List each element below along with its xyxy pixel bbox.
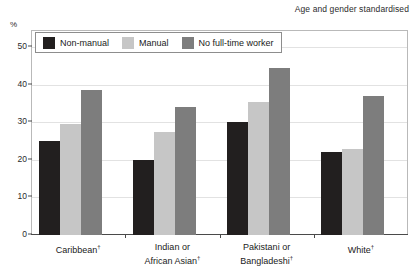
bar[interactable] bbox=[363, 96, 384, 235]
bar[interactable] bbox=[39, 141, 60, 235]
footnote-marker: † bbox=[371, 244, 374, 250]
bar-group bbox=[125, 30, 219, 235]
x-axis-label-line: White† bbox=[314, 242, 408, 256]
bar[interactable] bbox=[133, 160, 154, 235]
y-axis-tick-label: 40 bbox=[0, 79, 27, 89]
legend-item-label: Manual bbox=[139, 38, 169, 48]
x-axis-label-line: Bangladeshi† bbox=[220, 253, 314, 267]
footnote-marker: † bbox=[290, 255, 293, 261]
legend-item[interactable]: No full-time worker bbox=[182, 37, 274, 49]
x-axis-label-line: African Asian† bbox=[125, 253, 219, 267]
y-axis-unit-label: % bbox=[10, 20, 17, 29]
legend-swatch-icon bbox=[182, 37, 194, 49]
bar-group bbox=[314, 30, 408, 235]
bar-group bbox=[220, 30, 314, 235]
bar[interactable] bbox=[269, 68, 290, 235]
legend-item[interactable]: Non-manual bbox=[43, 37, 109, 49]
bars-layer bbox=[31, 30, 408, 235]
bar[interactable] bbox=[81, 90, 102, 235]
bar-group bbox=[31, 30, 125, 235]
y-axis-tick-label: 10 bbox=[0, 191, 27, 201]
y-axis-tick-label: 50 bbox=[0, 41, 27, 51]
y-axis-tick-label: 20 bbox=[0, 154, 27, 164]
bar[interactable] bbox=[248, 102, 269, 235]
y-axis-tick-label: 0 bbox=[0, 229, 27, 239]
bar[interactable] bbox=[60, 124, 81, 235]
legend-swatch-icon bbox=[43, 37, 55, 49]
y-axis-tick-label: 30 bbox=[0, 116, 27, 126]
footnote-marker: † bbox=[97, 244, 100, 250]
bar[interactable] bbox=[321, 152, 342, 235]
x-axis-tick-mark bbox=[220, 234, 221, 238]
bar[interactable] bbox=[227, 122, 248, 235]
bar[interactable] bbox=[175, 107, 196, 235]
chart-legend: Non-manualManualNo full-time worker bbox=[35, 32, 282, 53]
bar[interactable] bbox=[154, 132, 175, 235]
bar-chart-figure: Age and gender standardised % 0102030405… bbox=[0, 0, 417, 276]
x-axis-label-line: Caribbean† bbox=[31, 242, 125, 256]
x-axis-tick-mark bbox=[125, 234, 126, 238]
footnote-marker: † bbox=[197, 255, 200, 261]
legend-item[interactable]: Manual bbox=[122, 37, 169, 49]
x-axis-tick-mark bbox=[314, 234, 315, 238]
x-axis-category-label: White† bbox=[314, 242, 408, 256]
legend-swatch-icon bbox=[122, 37, 134, 49]
legend-item-label: No full-time worker bbox=[199, 38, 274, 48]
x-axis-category-label: Caribbean† bbox=[31, 242, 125, 256]
x-axis-category-label: Indian orAfrican Asian† bbox=[125, 242, 219, 267]
legend-item-label: Non-manual bbox=[60, 38, 109, 48]
x-axis-label-line: Pakistani or bbox=[220, 242, 314, 253]
bar[interactable] bbox=[342, 149, 363, 235]
chart-note: Age and gender standardised bbox=[295, 4, 409, 14]
x-axis-category-label: Pakistani orBangladeshi† bbox=[220, 242, 314, 267]
x-axis-label-line: Indian or bbox=[125, 242, 219, 253]
